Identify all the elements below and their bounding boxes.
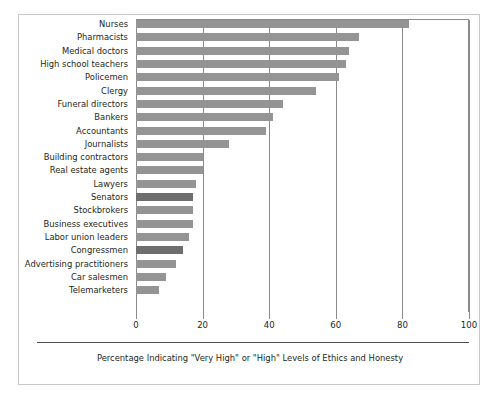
category-label: Congressmen: [19, 245, 132, 258]
category-label: Labor union leaders: [19, 232, 132, 245]
axis-caption: Percentage Indicating "Very High" or "Hi…: [19, 353, 481, 363]
category-label: Lawyers: [19, 179, 132, 192]
bar: [136, 87, 316, 95]
bar-row: [136, 126, 470, 139]
bar: [136, 193, 193, 201]
value-axis: 020406080100: [136, 312, 470, 334]
bar-row: [136, 272, 470, 285]
category-label: Telemarketers: [19, 285, 132, 298]
category-label: Business executives: [19, 219, 132, 232]
bar-row: [136, 285, 470, 298]
bar: [136, 47, 349, 55]
category-label: Bankers: [19, 112, 132, 125]
category-label: Advertising practitioners: [19, 259, 132, 272]
caption-block: Percentage Indicating "Very High" or "Hi…: [19, 353, 481, 363]
axis-tick: [269, 312, 270, 319]
axis-tick-label: 80: [397, 320, 408, 330]
caption-divider: [37, 342, 469, 343]
bar-row: [136, 219, 470, 232]
bar: [136, 153, 203, 161]
bar-row: [136, 232, 470, 245]
bar-row: [136, 59, 470, 72]
bar-row: [136, 259, 470, 272]
bar: [136, 180, 196, 188]
category-label: Real estate agents: [19, 165, 132, 178]
figure-frame: NursesPharmacistsMedical doctorsHigh sch…: [18, 14, 480, 385]
category-label: Journalists: [19, 139, 132, 152]
category-label: Car salesmen: [19, 272, 132, 285]
bar: [136, 20, 409, 28]
bar-row: [136, 112, 470, 125]
bar-row: [136, 152, 470, 165]
bar: [136, 60, 346, 68]
category-label: Funeral directors: [19, 99, 132, 112]
bar-row: [136, 205, 470, 218]
axis-tick: [136, 312, 137, 319]
axis-tick: [203, 312, 204, 319]
bar: [136, 140, 229, 148]
axis-tick: [336, 312, 337, 319]
category-label: Stockbrokers: [19, 205, 132, 218]
bar: [136, 113, 273, 121]
category-label: Building contractors: [19, 152, 132, 165]
bar: [136, 286, 159, 294]
axis-tick-label: 100: [461, 320, 477, 330]
bar: [136, 100, 283, 108]
axis-tick: [469, 312, 470, 319]
bar-row: [136, 165, 470, 178]
chart-area: NursesPharmacistsMedical doctorsHigh sch…: [19, 15, 481, 312]
bar-series: [136, 19, 470, 312]
bar: [136, 220, 193, 228]
axis-tick-label: 40: [264, 320, 275, 330]
bar: [136, 246, 183, 254]
bar-row: [136, 19, 470, 32]
bar-row: [136, 86, 470, 99]
bar: [136, 166, 203, 174]
bar-row: [136, 99, 470, 112]
axis-tick: [402, 312, 403, 319]
category-label: Nurses: [19, 19, 132, 32]
bar: [136, 233, 189, 241]
bar-row: [136, 72, 470, 85]
bar: [136, 73, 339, 81]
category-axis-labels: NursesPharmacistsMedical doctorsHigh sch…: [19, 19, 132, 312]
axis-tick-label: 20: [197, 320, 208, 330]
axis-tick-label: 0: [133, 320, 138, 330]
category-label: Clergy: [19, 86, 132, 99]
bar: [136, 33, 359, 41]
bar-row: [136, 46, 470, 59]
bar: [136, 127, 266, 135]
bar: [136, 206, 193, 214]
category-label: Pharmacists: [19, 32, 132, 45]
category-label: High school teachers: [19, 59, 132, 72]
bar: [136, 260, 176, 268]
bar-row: [136, 245, 470, 258]
axis-tick-label: 60: [330, 320, 341, 330]
bar: [136, 273, 166, 281]
category-label: Medical doctors: [19, 46, 132, 59]
category-label: Accountants: [19, 126, 132, 139]
bar-row: [136, 32, 470, 45]
category-label: Policemen: [19, 72, 132, 85]
bar-row: [136, 179, 470, 192]
bar-row: [136, 139, 470, 152]
bar-row: [136, 192, 470, 205]
category-label: Senators: [19, 192, 132, 205]
